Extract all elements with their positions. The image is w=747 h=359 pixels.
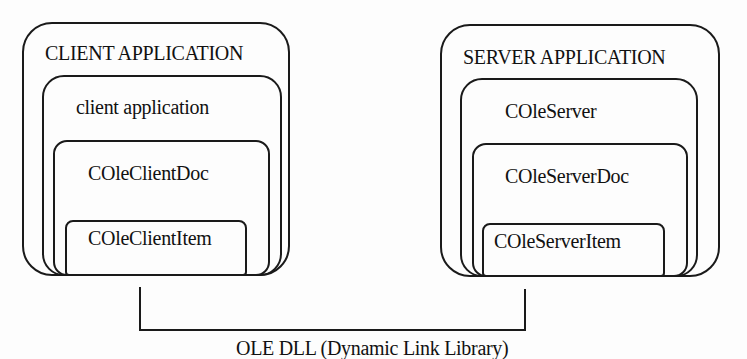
connector-left-leg [139, 287, 141, 331]
server-item-label: COleServerItem [494, 231, 621, 251]
connector-label: OLE DLL (Dynamic Link Library) [236, 338, 508, 358]
server-application-title: SERVER APPLICATION [463, 47, 665, 67]
connector-right-leg [524, 289, 526, 331]
client-application-title: CLIENT APPLICATION [45, 43, 243, 63]
client-doc-label: COleClientDoc [88, 163, 209, 183]
client-application-label: client application [76, 97, 209, 117]
client-item-label: COleClientItem [88, 228, 212, 248]
server-label: COleServer [505, 101, 596, 121]
server-doc-label: COleServerDoc [505, 166, 629, 186]
connector-bottom-line [139, 329, 526, 331]
